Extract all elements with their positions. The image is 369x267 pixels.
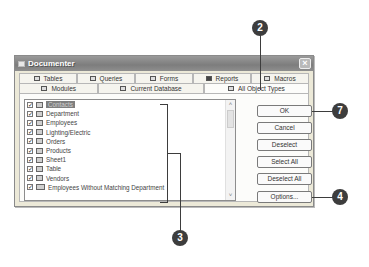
select-all-button[interactable]: Select All — [257, 156, 312, 168]
list-item[interactable]: ✓Lighting/Electric — [25, 128, 235, 137]
tab-row-2: Modules Current Database All Object Type… — [19, 83, 309, 93]
list-item[interactable]: ✓Employees — [25, 118, 235, 127]
object-list[interactable]: ✓Contacts ✓Department ✓Employees ✓Lighti… — [24, 99, 236, 201]
checkbox[interactable]: ✓ — [27, 102, 33, 108]
table-icon — [36, 148, 43, 154]
options-button[interactable]: Options... — [257, 191, 312, 203]
module-icon — [41, 86, 47, 91]
tab-modules[interactable]: Modules — [19, 83, 98, 93]
table-icon — [36, 111, 43, 117]
list-item[interactable]: ✓Department — [25, 109, 235, 118]
checkbox[interactable]: ✓ — [27, 129, 33, 135]
callout-3: 3 — [172, 230, 188, 246]
callout-2-leader — [260, 34, 261, 90]
table-icon — [36, 102, 43, 108]
checkbox[interactable]: ✓ — [27, 166, 33, 172]
report-icon — [206, 76, 212, 81]
all-objects-icon — [228, 86, 234, 91]
ok-button[interactable]: OK — [257, 105, 312, 117]
scroll-thumb[interactable] — [227, 110, 234, 128]
deselect-all-button[interactable]: Deselect All — [257, 173, 312, 185]
tab-reports[interactable]: Reports — [193, 73, 251, 83]
callout-3-leader — [180, 153, 181, 231]
checkbox[interactable]: ✓ — [27, 175, 33, 181]
tab-all-object-types[interactable]: All Object Types — [204, 83, 309, 93]
callout-4-leader — [312, 197, 334, 198]
list-item[interactable]: ✓Contacts — [25, 100, 235, 109]
checkbox[interactable]: ✓ — [27, 111, 33, 117]
query-icon — [36, 184, 45, 190]
table-icon — [34, 76, 40, 81]
callout-7-leader — [312, 111, 334, 112]
tab-current-database[interactable]: Current Database — [98, 83, 203, 93]
cancel-button[interactable]: Cancel — [257, 122, 312, 134]
macro-icon — [264, 76, 270, 81]
app-icon — [18, 61, 25, 67]
tab-tables[interactable]: Tables — [19, 73, 77, 83]
table-icon — [36, 166, 43, 172]
window-title: Documenter — [28, 59, 75, 68]
checkbox[interactable]: ✓ — [27, 138, 33, 144]
bracket-bottom — [160, 202, 168, 203]
tab-queries[interactable]: Queries — [77, 73, 135, 83]
query-icon — [90, 76, 96, 81]
table-icon — [36, 120, 43, 126]
checkbox[interactable]: ✓ — [27, 148, 33, 154]
list-item[interactable]: ✓Vendors — [25, 174, 235, 183]
bracket-connector — [167, 153, 180, 154]
callout-2: 2 — [252, 20, 268, 36]
list-item[interactable]: ✓Orders — [25, 137, 235, 146]
close-button[interactable]: × — [299, 58, 311, 69]
list-item[interactable]: ✓Table — [25, 164, 235, 173]
checkbox[interactable]: ✓ — [27, 184, 33, 190]
title-bar[interactable]: Documenter × — [15, 56, 313, 71]
list-item[interactable]: ✓Employees Without Matching Department — [25, 183, 235, 192]
deselect-button[interactable]: Deselect — [257, 139, 312, 151]
scroll-down-icon[interactable]: ˅ — [226, 191, 235, 200]
checkbox[interactable]: ✓ — [27, 157, 33, 163]
table-icon — [36, 129, 43, 135]
table-icon — [36, 175, 43, 181]
tab-row-1: Tables Queries Forms Reports Macros — [19, 73, 309, 83]
table-icon — [36, 157, 43, 163]
database-icon — [120, 86, 126, 91]
scroll-up-icon[interactable]: ˄ — [226, 100, 235, 109]
table-icon — [36, 138, 43, 144]
callout-7: 7 — [332, 103, 348, 119]
list-item[interactable]: ✓Products — [25, 146, 235, 155]
list-item[interactable]: ✓Sheet1 — [25, 155, 235, 164]
callout-4: 4 — [332, 189, 348, 205]
checkbox[interactable]: ✓ — [27, 120, 33, 126]
tab-forms[interactable]: Forms — [135, 73, 193, 83]
vertical-scrollbar[interactable]: ˄ ˅ — [225, 100, 235, 200]
form-icon — [150, 76, 156, 81]
